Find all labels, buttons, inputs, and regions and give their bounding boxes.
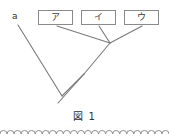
scallop-arcs [0,130,169,134]
taxon-label-u: ウ [137,13,146,22]
branch-tu [110,26,142,43]
figure-caption: 図 1 [0,108,169,123]
taxon-box-u: ウ [124,10,159,25]
branch-stem-tip [58,74,84,103]
taxon-label-a: ア [51,13,60,22]
taxon-box-i: イ [81,10,116,25]
branch-ta [57,26,110,43]
branch-iu-stem [84,43,110,74]
taxon-box-a: ア [38,10,73,25]
scalloped-divider [0,128,169,136]
figure-panel: ア イ ウ a 図 1 [0,0,169,138]
taxon-label-i: イ [94,13,103,22]
tree-branch-group [18,25,142,103]
root-branch-label: a [12,12,18,21]
branch-a [18,25,62,96]
